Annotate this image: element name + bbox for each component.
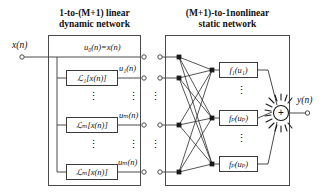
ellipsis-interconnect-upper: ⋮ [150, 90, 161, 102]
ellipsis-boxes-lower: ⋮ [88, 138, 99, 150]
right-network-title: (M+1)-to-1nonlinear static network [162, 8, 293, 31]
ellipsis-interconnect-lower: ⋮ [150, 138, 161, 150]
right-input-terminal-0 [158, 55, 162, 59]
linear-operator-box-m[interactable]: ℒₘ[x(n)] [66, 117, 118, 133]
mesh-hidden-nodes [210, 68, 215, 167]
summation-plus-symbol: + [278, 107, 284, 118]
mesh-hidden-node-1 [210, 116, 215, 121]
figure-block-diagram: 1-to-(M+1) linear dynamic network (M+1)-… [0, 0, 331, 196]
mesh-edge-3-1 [179, 118, 212, 172]
linear-operator-box-M[interactable]: ℒₘ[x(n)] [66, 164, 118, 180]
output-label-y: y(n) [297, 95, 312, 106]
signal-label-u0: u₀(n)=x(n) [84, 43, 121, 53]
mesh-input-node-0 [177, 55, 182, 60]
mesh-edge-0-1 [179, 57, 212, 118]
nonlinear-function-box-1[interactable]: f₁(u₁) [219, 62, 258, 78]
mesh-edge-0-2 [179, 57, 212, 164]
output-terminal-y [305, 111, 309, 115]
right-input-terminal-2 [158, 123, 162, 127]
signal-label-u1: u₁(n) [119, 64, 136, 74]
mesh-input-node-3 [177, 170, 182, 175]
mesh-edge-2-0 [179, 70, 212, 125]
nonlinear-function-box-p[interactable]: fₚ(uₚ) [219, 110, 258, 126]
f3-out-path [258, 122, 277, 164]
mesh-hidden-node-2 [210, 162, 215, 167]
ellipsis-signals-lower: ⋮ [128, 138, 139, 150]
input-terminal-x [20, 55, 24, 59]
mesh-input-nodes [177, 55, 182, 175]
mesh-input-node-1 [177, 76, 182, 81]
ellipsis-functions-upper: ⋮ [236, 84, 247, 96]
ellipsis-functions-lower: ⋮ [236, 132, 247, 144]
signal-label-uM: uₘ(n) [118, 158, 137, 168]
ellipsis-boxes-upper: ⋮ [88, 90, 99, 102]
mesh-connections [179, 57, 212, 172]
f1-out-path [258, 70, 277, 105]
linear-operator-box-1[interactable]: ℒ₁[x(n)] [66, 70, 118, 86]
left-output-terminal-1 [142, 76, 146, 80]
mesh-edge-3-0 [179, 70, 212, 172]
right-input-terminal-3 [158, 170, 162, 174]
nonlinear-function-box-P[interactable]: fₚ(uₚ) [219, 156, 258, 172]
left-output-terminal-0 [142, 55, 146, 59]
mesh-input-node-2 [177, 123, 182, 128]
left-network-title: 1-to-(M+1) linear dynamic network [48, 8, 141, 31]
input-label-x: x(n) [12, 40, 27, 51]
left-output-terminal-2 [142, 123, 146, 127]
mesh-edge-3-2 [179, 164, 212, 172]
ellipsis-signals-upper: ⋮ [128, 90, 139, 102]
right-input-terminal-1 [158, 76, 162, 80]
signal-label-um: uₘ(n) [119, 111, 138, 121]
left-output-terminal-3 [142, 170, 146, 174]
mesh-edge-0-0 [179, 57, 212, 70]
mesh-hidden-node-0 [210, 68, 215, 73]
